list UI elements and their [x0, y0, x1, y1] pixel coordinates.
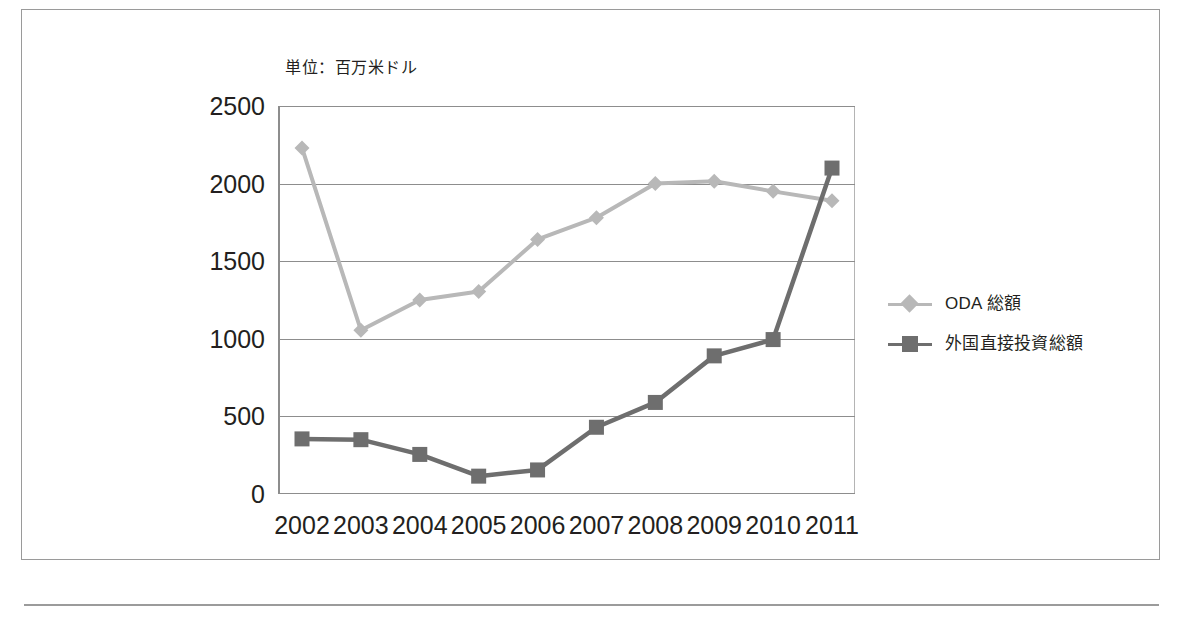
- data-point-marker: [412, 293, 427, 308]
- figure-page: 単位：百万米ドル 2500 2000 1500 1000 500 0 20022…: [0, 0, 1183, 622]
- data-point-marker: [353, 432, 368, 447]
- data-point-marker: [648, 395, 663, 410]
- data-point-marker: [295, 140, 310, 155]
- y-tick-1000: 1000: [209, 326, 265, 351]
- unit-note-label: 単位：百万米ドル: [285, 58, 417, 78]
- series-plot: [279, 106, 855, 494]
- x-tick-2009: 2009: [686, 510, 742, 540]
- y-tick-500: 500: [223, 404, 265, 429]
- y-tick-2500: 2500: [209, 94, 265, 119]
- x-tick-2003: 2003: [333, 510, 389, 540]
- x-tick-2004: 2004: [392, 510, 448, 540]
- y-tick-2000: 2000: [209, 171, 265, 196]
- data-point-marker: [471, 469, 486, 484]
- legend-item-oda: ODA 総額: [888, 287, 1158, 321]
- x-tick-2011: 2011: [805, 510, 859, 540]
- plot-area: [279, 106, 855, 494]
- x-tick-2002: 2002: [274, 510, 330, 540]
- y-axis-tick-labels: 2500 2000 1500 1000 500 0: [177, 106, 265, 494]
- series-oda: [295, 140, 840, 337]
- data-point-marker: [412, 447, 427, 462]
- legend-label-fdi: 外国直接投資総額: [945, 334, 1083, 354]
- x-tick-2005: 2005: [451, 510, 507, 540]
- x-tick-2006: 2006: [510, 510, 566, 540]
- data-point-marker: [295, 431, 310, 446]
- x-axis-tick-labels: 2002200320042005200620072008200920102011: [252, 510, 892, 544]
- series-line: [302, 148, 832, 330]
- data-point-marker: [825, 161, 840, 176]
- data-point-marker: [530, 462, 545, 477]
- data-point-marker: [766, 332, 781, 347]
- x-tick-2010: 2010: [745, 510, 801, 540]
- y-tick-0: 0: [251, 482, 265, 507]
- chart-legend: ODA 総額 外国直接投資総額: [888, 287, 1158, 367]
- figure-frame: 単位：百万米ドル 2500 2000 1500 1000 500 0 20022…: [21, 9, 1160, 560]
- data-point-marker: [353, 323, 368, 338]
- legend-swatch-diamond-icon: [888, 294, 932, 314]
- series-line: [302, 168, 832, 476]
- x-tick-2008: 2008: [628, 510, 684, 540]
- bottom-divider-rule: [24, 604, 1159, 606]
- data-point-marker: [707, 348, 722, 363]
- data-point-marker: [707, 174, 722, 189]
- y-tick-1500: 1500: [209, 249, 265, 274]
- legend-label-oda: ODA 総額: [945, 294, 1021, 314]
- legend-item-fdi: 外国直接投資総額: [888, 327, 1158, 361]
- legend-swatch-square-icon: [888, 334, 932, 354]
- data-point-marker: [589, 420, 604, 435]
- x-tick-2007: 2007: [569, 510, 625, 540]
- data-point-marker: [766, 184, 781, 199]
- data-point-marker: [825, 193, 840, 208]
